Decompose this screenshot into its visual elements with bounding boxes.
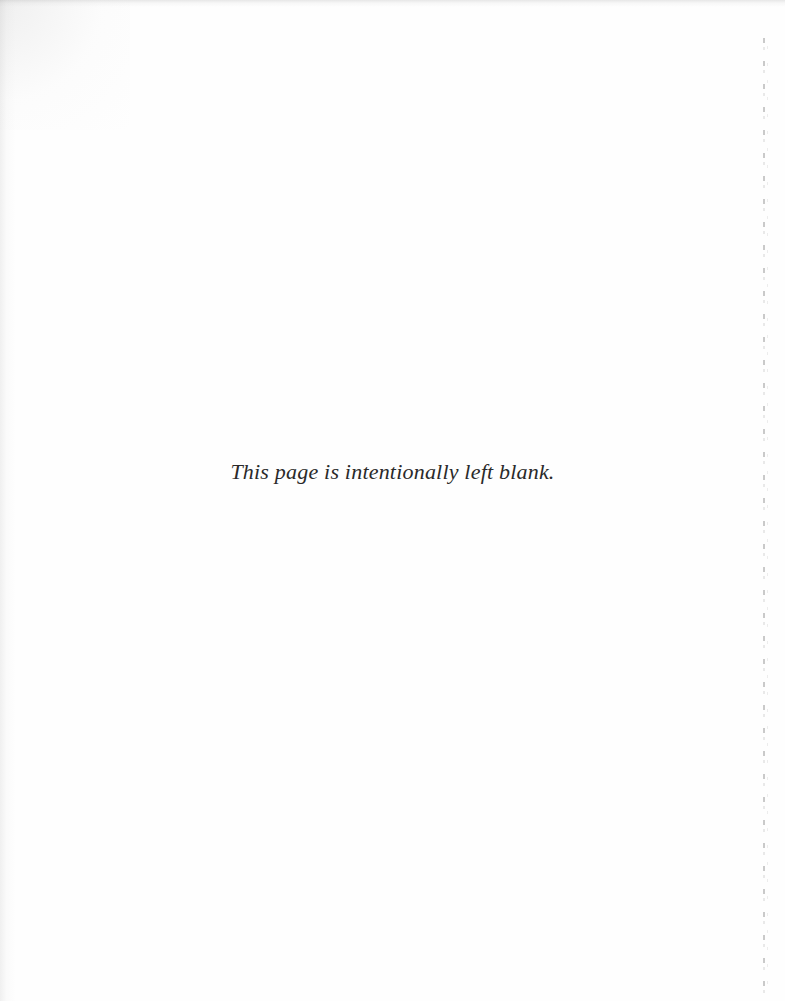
- page-corner-vignette: [0, 0, 130, 130]
- page-top-edge-shadow: [0, 0, 785, 7]
- page-gutter-dotted-line-ghost: [767, 46, 768, 986]
- blank-page-notice: This page is intentionally left blank.: [0, 457, 785, 487]
- page-gutter-dotted-line: [763, 38, 765, 993]
- scanned-page: This page is intentionally left blank.: [0, 0, 785, 1001]
- page-left-edge-shadow: [0, 0, 16, 1001]
